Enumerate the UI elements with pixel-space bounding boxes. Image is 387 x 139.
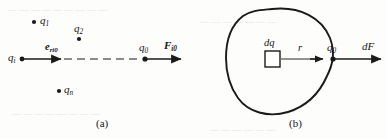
label-df-F: F	[368, 40, 375, 52]
label-dq-q: q	[269, 37, 274, 48]
label-q1-sub: 1	[46, 20, 50, 28]
label-dq: dq	[264, 38, 275, 49]
label-q0-b: q0	[327, 42, 336, 55]
label-q1: q1	[40, 15, 49, 28]
label-qi: qi	[8, 52, 16, 65]
label-q2: q2	[74, 23, 83, 36]
caption-panel-b: (b)	[289, 117, 302, 129]
charge-dot-qn	[57, 89, 61, 93]
caption-panel-a: (a)	[96, 117, 108, 129]
label-qi-sub: i	[14, 57, 16, 65]
label-q0-b-sub: 0	[333, 47, 337, 55]
label-qn: qn	[64, 84, 73, 97]
charge-dot-q2	[77, 37, 81, 41]
label-distance-r: r	[298, 43, 302, 54]
label-force-vector-sub: i0	[171, 45, 177, 53]
label-unit-vector: eri0	[45, 42, 58, 54]
label-unit-vector-sub: ri0	[50, 46, 58, 53]
label-force-vector: Fi0	[164, 40, 177, 53]
label-q0-a: q0	[139, 42, 148, 55]
label-q2-sub: 2	[80, 28, 84, 36]
figure-container: — — — — — — — — — — — — — — — — — — — — …	[0, 0, 387, 139]
panel-a-drawing	[20, 20, 181, 93]
label-qn-sub: n	[70, 89, 74, 97]
label-differential-force: dF	[362, 41, 374, 52]
charge-element-rect	[265, 51, 280, 67]
label-q0-a-sub: 0	[145, 47, 149, 55]
charge-dot-q1	[32, 20, 36, 24]
panel-b-drawing	[226, 9, 381, 115]
figure-drawing	[0, 0, 387, 139]
